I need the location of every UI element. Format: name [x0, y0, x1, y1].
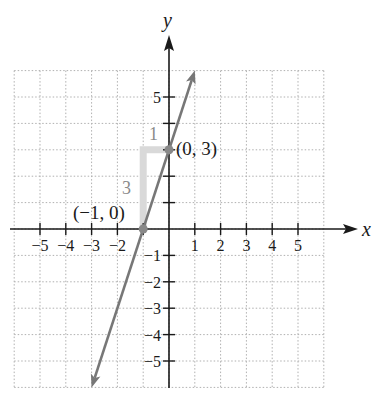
- x-tick-label: 5: [294, 237, 302, 254]
- x-tick-label: −3: [83, 237, 100, 254]
- y-tick-label: −5: [144, 353, 161, 370]
- rise-label: 3: [122, 178, 131, 198]
- y-tick-label: 5: [153, 89, 161, 106]
- x-tick-label: 4: [268, 237, 276, 254]
- x-tick-label: −2: [109, 237, 126, 254]
- x-tick-label: −5: [31, 237, 48, 254]
- plotted-point: [139, 225, 148, 234]
- y-axis-label: y: [161, 9, 172, 32]
- y-tick-label: −4: [144, 327, 161, 344]
- x-tick-label: 3: [242, 237, 250, 254]
- run-label: 1: [149, 124, 158, 144]
- x-axis-label: x: [361, 218, 371, 240]
- x-tick-label: 2: [217, 237, 225, 254]
- point-label-x-intercept: (−1, 0): [73, 202, 125, 224]
- x-tick-label: −4: [57, 237, 74, 254]
- plotted-point: [165, 145, 174, 154]
- y-tick-label: −1: [144, 247, 161, 264]
- point-label-y-intercept: (0, 3): [176, 138, 217, 160]
- y-tick-label: −3: [144, 300, 161, 317]
- y-tick-label: −2: [144, 274, 161, 291]
- coordinate-plane: −5−4−3−2123455−1−2−3−4−5 x y (−1, 0) (0,…: [0, 0, 378, 399]
- x-tick-label: 1: [191, 237, 199, 254]
